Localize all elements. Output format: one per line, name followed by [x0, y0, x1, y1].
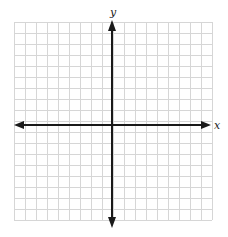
x-axis-right-arrow-icon: [201, 121, 211, 129]
y-axis: y: [108, 6, 117, 228]
x-axis-left-arrow-icon: [14, 121, 24, 129]
y-axis-bottom-arrow-icon: [108, 217, 116, 228]
coordinate-plane: x y: [0, 0, 228, 237]
y-axis-top-arrow-icon: [108, 20, 116, 31]
y-axis-label: y: [109, 6, 117, 19]
grid-lines: [14, 22, 213, 221]
x-axis-label: x: [214, 119, 221, 132]
x-axis: x: [14, 119, 221, 132]
